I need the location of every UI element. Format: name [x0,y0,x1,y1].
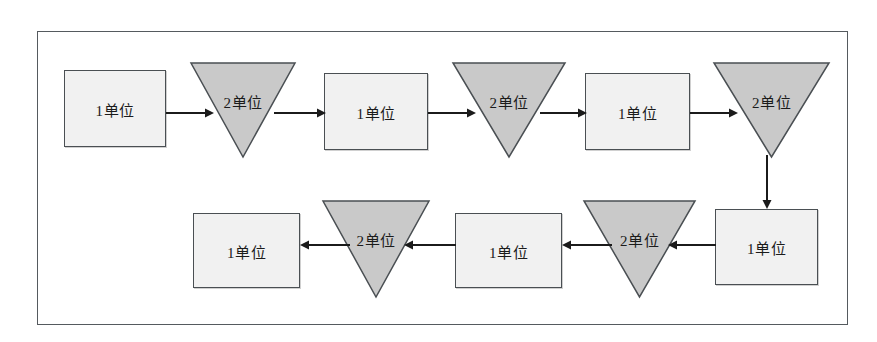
flow-arrow [668,238,716,252]
flow-arrow [562,238,612,252]
process-node-rectangle[interactable]: 1单位 [193,213,300,288]
flow-arrow [760,155,774,209]
flow-arrow [274,106,326,120]
flow-arrow [166,106,214,120]
process-node-rectangle[interactable]: 1单位 [64,70,166,147]
node-label: 1单位 [716,237,817,258]
node-label: 1单位 [456,240,561,261]
flow-arrow [690,106,738,120]
process-node-rectangle[interactable]: 1单位 [585,73,690,150]
flow-arrow [428,106,476,120]
process-node-rectangle[interactable]: 1单位 [455,213,562,288]
flow-arrow [540,106,587,120]
diagram-canvas: 1单位2单位1单位2单位1单位2单位1单位2单位1单位2单位1单位 [0,0,877,342]
process-node-rectangle[interactable]: 1单位 [324,73,428,150]
node-label: 1单位 [325,101,427,122]
flow-arrow [300,238,350,252]
node-label: 1单位 [65,98,165,119]
process-node-rectangle[interactable]: 1单位 [715,209,818,285]
flow-arrow [404,238,456,252]
node-label: 1单位 [194,240,299,261]
node-label: 1单位 [586,101,689,122]
